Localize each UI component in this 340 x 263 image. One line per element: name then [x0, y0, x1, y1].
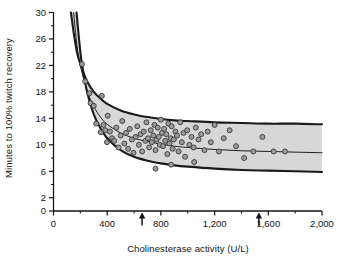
- data-point: [183, 154, 188, 159]
- data-point: [120, 119, 125, 124]
- data-point: [118, 133, 123, 138]
- data-point: [79, 62, 84, 67]
- data-point: [162, 126, 167, 131]
- data-point: [87, 91, 92, 96]
- y-tick-label: 30: [35, 7, 46, 18]
- data-point: [158, 117, 163, 122]
- data-point: [193, 125, 198, 130]
- data-point: [271, 149, 276, 154]
- data-point: [124, 130, 129, 135]
- data-point: [126, 146, 131, 151]
- x-tick-label: 0: [51, 218, 56, 229]
- data-point: [101, 122, 106, 127]
- x-tick-label: 1,600: [256, 218, 280, 229]
- data-point: [141, 129, 146, 134]
- data-point: [116, 145, 121, 150]
- data-point: [176, 149, 181, 154]
- data-point: [99, 93, 104, 98]
- data-point: [221, 136, 226, 141]
- data-point: [149, 140, 154, 145]
- y-tick-label: 18: [35, 86, 46, 97]
- x-tick-label: 800: [153, 218, 169, 229]
- y-tick-label: 6: [41, 166, 46, 177]
- data-point: [112, 138, 117, 143]
- y-tick-label: 2: [41, 192, 46, 203]
- data-point: [144, 120, 149, 125]
- data-point: [282, 149, 287, 154]
- data-point: [260, 134, 265, 139]
- arrow-head-icon: [139, 213, 145, 219]
- data-point: [216, 149, 221, 154]
- data-point: [136, 142, 141, 147]
- data-point: [242, 156, 247, 161]
- arrow-head-icon: [256, 213, 262, 219]
- y-tick-label: 22: [35, 60, 46, 71]
- data-point: [189, 134, 194, 139]
- data-point: [107, 129, 112, 134]
- data-point: [205, 129, 210, 134]
- x-axis-ticks: [54, 211, 323, 216]
- data-point: [169, 124, 174, 129]
- y-tick-label: 10: [35, 139, 46, 150]
- data-point: [105, 113, 110, 118]
- data-point: [185, 128, 190, 133]
- data-point: [155, 125, 160, 130]
- data-point: [167, 141, 172, 146]
- data-point: [191, 145, 196, 150]
- plot-area: [71, 13, 322, 172]
- data-point: [133, 134, 138, 139]
- data-point: [104, 140, 109, 145]
- scatter-plot-svg: 026101418222630 04008001,2001,6002,000 C…: [0, 0, 340, 263]
- data-point: [161, 144, 166, 149]
- data-point: [202, 148, 207, 153]
- x-tick-label: 2,000: [310, 218, 334, 229]
- data-point: [146, 136, 151, 141]
- data-point: [179, 140, 184, 145]
- data-point: [135, 124, 140, 129]
- data-point: [148, 128, 153, 133]
- y-axis-tick-labels: 026101418222630: [35, 7, 46, 217]
- x-tick-label: 400: [99, 218, 115, 229]
- data-point: [175, 133, 180, 138]
- data-point: [199, 132, 204, 137]
- data-point: [153, 166, 158, 171]
- x-tick-label: 1,200: [203, 218, 227, 229]
- y-axis-title: Minutes to 100% twitch recovery: [3, 38, 14, 178]
- data-point: [165, 152, 170, 157]
- data-point: [234, 144, 239, 149]
- data-point: [251, 149, 256, 154]
- y-tick-label: 0: [41, 205, 46, 216]
- data-point: [170, 146, 175, 151]
- data-point: [83, 79, 88, 84]
- data-point: [212, 122, 217, 127]
- data-point: [178, 120, 183, 125]
- data-point: [94, 121, 99, 126]
- data-point: [131, 150, 136, 155]
- data-point: [169, 162, 174, 167]
- data-point: [127, 126, 132, 131]
- data-point: [122, 141, 127, 146]
- data-point: [192, 160, 197, 165]
- y-tick-label: 14: [35, 113, 46, 124]
- chart-figure: 026101418222630 04008001,2001,6002,000 C…: [0, 0, 340, 263]
- data-point: [164, 132, 169, 137]
- data-point: [147, 145, 152, 150]
- data-point: [227, 128, 232, 133]
- y-axis-ticks: [49, 13, 54, 212]
- y-tick-label: 26: [35, 33, 46, 44]
- data-point: [91, 103, 96, 108]
- arrow-lower-reference: [139, 213, 145, 226]
- x-axis-tick-labels: 04008001,2001,6002,000: [51, 218, 334, 229]
- x-axis-title: Cholinesterase activity (U/L): [127, 243, 249, 254]
- data-point: [140, 149, 145, 154]
- data-point: [153, 148, 158, 153]
- data-point: [196, 137, 201, 142]
- data-point: [114, 125, 119, 130]
- data-point: [208, 140, 213, 145]
